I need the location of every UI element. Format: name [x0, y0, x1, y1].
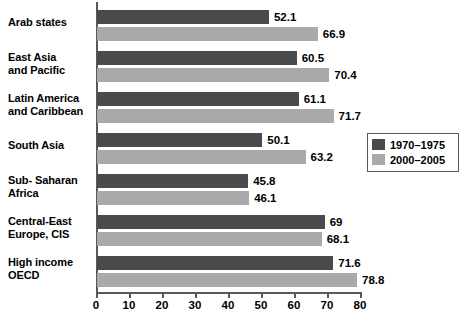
bar-latin-america-and-caribbean-2000-2005 [97, 109, 334, 123]
bar-value-south-asia-2000-2005: 63.2 [311, 150, 333, 164]
legend-swatch-icon-2000-2005 [372, 154, 385, 165]
x-tick-label-10: 10 [114, 299, 144, 311]
x-tick-mark-10 [129, 293, 131, 298]
bar-value-central-east-europe-cis-1970-1975: 69 [330, 215, 343, 229]
x-tick-mark-50 [261, 293, 263, 298]
bar-value-arab-states-1970-1975: 52.1 [274, 10, 296, 24]
x-tick-mark-80 [360, 293, 362, 298]
x-tick-mark-20 [162, 293, 164, 298]
x-tick-label-40: 40 [213, 299, 243, 311]
chart-legend: 1970–1975 2000–2005 [367, 133, 459, 172]
bar-east-asia-and-pacific-1970-1975 [97, 51, 297, 65]
bar-high-income-oecd-1970-1975 [97, 256, 333, 270]
bar-high-income-oecd-2000-2005 [97, 273, 357, 287]
x-tick-label-30: 30 [180, 299, 210, 311]
category-label-south-asia: South Asia [8, 139, 94, 152]
x-tick-mark-30 [195, 293, 197, 298]
bar-value-high-income-oecd-2000-2005: 78.8 [362, 273, 384, 287]
category-label-high-income-oecd: High income OECD [8, 256, 94, 281]
x-tick-mark-40 [228, 293, 230, 298]
x-tick-label-20: 20 [147, 299, 177, 311]
bar-south-asia-1970-1975 [97, 133, 262, 147]
x-tick-mark-70 [327, 293, 329, 298]
bar-value-high-income-oecd-1970-1975: 71.6 [338, 256, 360, 270]
bar-value-sub-saharan-africa-2000-2005: 46.1 [254, 191, 276, 205]
x-tick-label-70: 70 [312, 299, 342, 311]
bar-value-latin-america-and-caribbean-2000-2005: 71.7 [339, 109, 361, 123]
legend-swatch-icon-1970-1975 [372, 139, 385, 150]
category-label-sub-saharan-africa: Sub- Saharan Africa [8, 174, 94, 199]
bar-value-central-east-europe-cis-2000-2005: 68.1 [327, 232, 349, 246]
bar-value-sub-saharan-africa-1970-1975: 45.8 [253, 174, 275, 188]
bar-central-east-europe-cis-1970-1975 [97, 215, 325, 229]
bar-value-south-asia-1970-1975: 50.1 [267, 133, 289, 147]
bar-central-east-europe-cis-2000-2005 [97, 232, 322, 246]
x-tick-label-80: 80 [345, 299, 375, 311]
legend-label-1970-1975: 1970–1975 [390, 139, 445, 151]
x-tick-label-50: 50 [246, 299, 276, 311]
bar-latin-america-and-caribbean-1970-1975 [97, 92, 299, 106]
bar-chart: Arab states East Asia and Pacific Latin … [0, 0, 467, 329]
legend-entry-1970-1975: 1970–1975 [372, 137, 454, 152]
bar-arab-states-1970-1975 [97, 10, 269, 24]
x-tick-mark-60 [294, 293, 296, 298]
bar-sub-saharan-africa-2000-2005 [97, 191, 249, 205]
bar-east-asia-and-pacific-2000-2005 [97, 68, 329, 82]
category-label-arab-states: Arab states [8, 16, 94, 29]
bar-arab-states-2000-2005 [97, 27, 318, 41]
x-tick-label-60: 60 [279, 299, 309, 311]
bar-value-east-asia-and-pacific-1970-1975: 60.5 [302, 51, 324, 65]
category-label-central-east-europe-cis: Central-East Europe, CIS [8, 215, 94, 240]
bar-south-asia-2000-2005 [97, 150, 306, 164]
x-tick-label-0: 0 [81, 299, 111, 311]
legend-label-2000-2005: 2000–2005 [390, 154, 445, 166]
legend-entry-2000-2005: 2000–2005 [372, 152, 454, 167]
category-label-east-asia-and-pacific: East Asia and Pacific [8, 51, 94, 76]
bar-value-east-asia-and-pacific-2000-2005: 70.4 [334, 68, 356, 82]
bar-value-latin-america-and-caribbean-1970-1975: 61.1 [304, 92, 326, 106]
category-label-latin-america-and-caribbean: Latin America and Caribbean [8, 92, 94, 117]
bar-value-arab-states-2000-2005: 66.9 [323, 27, 345, 41]
x-tick-mark-0 [96, 293, 98, 298]
bar-sub-saharan-africa-1970-1975 [97, 174, 248, 188]
y-axis-line [96, 2, 98, 293]
plot-area: 0 10 20 30 40 50 60 70 80 52.1 66.9 60.5… [96, 0, 364, 293]
